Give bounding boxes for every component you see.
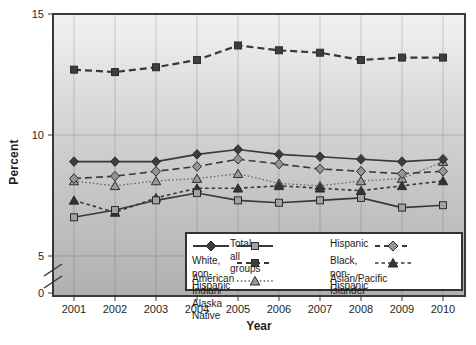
- american-indian-marker-icon: [374, 257, 412, 269]
- svg-text:15: 15: [32, 8, 44, 20]
- legend-item-total: Total, all groups: [192, 237, 230, 254]
- svg-text:2002: 2002: [103, 303, 127, 315]
- legend-label-asian: Asian/Pacific Islander: [330, 272, 387, 298]
- legend: Total, all groups Hispanic White, non-Hi…: [185, 232, 463, 291]
- hispanic-marker-icon: [236, 240, 274, 252]
- legend-label-hispanic: Hispanic: [330, 237, 368, 251]
- svg-text:2006: 2006: [267, 303, 291, 315]
- svg-text:2008: 2008: [349, 303, 373, 315]
- svg-text:10: 10: [32, 129, 44, 141]
- svg-text:2010: 2010: [431, 303, 455, 315]
- figure: 1510502001200220032004200520062007200820…: [0, 0, 476, 345]
- svg-text:2007: 2007: [308, 303, 332, 315]
- total-all-groups-marker-icon: [192, 240, 230, 252]
- x-axis-title: Year: [53, 319, 465, 333]
- y-axis-title: Percent: [7, 139, 21, 184]
- svg-text:2009: 2009: [390, 303, 414, 315]
- legend-item-hispanic-sample: [236, 237, 324, 254]
- line-chart: 1510502001200220032004200520062007200820…: [0, 0, 476, 345]
- svg-text:2001: 2001: [62, 303, 86, 315]
- white-non-hispanic-marker-icon: [374, 240, 412, 252]
- asian-pacific-islander-marker-icon: [236, 275, 274, 287]
- legend-label-american-indian: American Indian/ Alaska Native: [192, 272, 234, 323]
- svg-text:2003: 2003: [144, 303, 168, 315]
- svg-text:5: 5: [38, 250, 44, 262]
- black-non-hispanic-marker-icon: [236, 257, 274, 269]
- svg-text:0: 0: [38, 287, 44, 299]
